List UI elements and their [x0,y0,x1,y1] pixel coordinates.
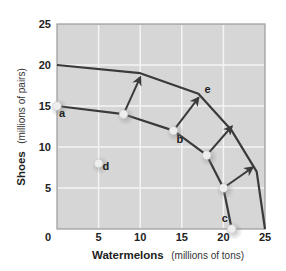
y-tick-label: 25 [39,18,51,30]
x-tick-label: 10 [134,231,146,243]
data-point-marker [119,110,127,118]
x-tick-label: 15 [176,231,188,243]
y-tick-label: 10 [39,141,51,153]
x-tick-label: 20 [217,231,229,243]
x-tick-label: 25 [259,231,271,243]
data-point-marker [94,159,102,167]
x-axis-title: Watermelons (millions of tons) [92,245,244,262]
y-tick-label: 20 [39,59,51,71]
y-tick-label: 15 [39,100,51,112]
data-point-marker [219,184,227,192]
x-tick-label: 5 [96,231,102,243]
point-label-d: d [103,160,110,172]
point-label-a: a [59,107,66,119]
x-axis-title-main: Watermelons [92,249,164,261]
y-axis-title: Shoes (millions of pairs) [11,68,28,186]
y-axis-title-main: Shoes [15,151,27,186]
data-point-marker [203,151,211,159]
point-label-c: c [222,212,228,224]
x-axis-title-unit: (millions of tons) [171,250,244,261]
y-axis-ticks: 510152025 [39,18,51,194]
point-label-b: b [176,133,183,145]
y-axis-title-unit: (millions of pairs) [16,68,27,144]
ppf-chart: abced 0510152025 510152025 Watermelons (… [0,0,286,271]
x-tick-label: 0 [45,231,51,243]
point-label-e: e [204,83,210,95]
y-tick-label: 5 [45,182,51,194]
